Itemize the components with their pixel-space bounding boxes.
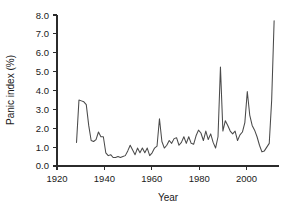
y-tick-label: 8.0 [36, 10, 49, 21]
y-tick-label: 4.0 [36, 85, 49, 96]
x-tick-label: 2000 [236, 173, 257, 184]
panic-index-line-chart: Panic index (%) 8.0 7.0 6.0 5.0 4.0 3.0 … [0, 0, 287, 211]
x-tick-label: 1980 [189, 173, 210, 184]
y-tick-label: 0.0 [36, 160, 49, 171]
x-tick-label: 1960 [141, 173, 162, 184]
x-tick-label: 1940 [94, 173, 115, 184]
y-tick-label: 1.0 [36, 142, 49, 153]
y-axis-title: Panic index (%) [5, 55, 16, 125]
y-tick-label: 3.0 [36, 104, 49, 115]
y-tick-label: 5.0 [36, 66, 49, 77]
y-tick-labels: 8.0 7.0 6.0 5.0 4.0 3.0 2.0 1.0 0.0 [36, 10, 49, 172]
x-axis-title: Year [158, 192, 179, 203]
y-tick-label: 7.0 [36, 28, 49, 39]
y-tick-label: 6.0 [36, 47, 49, 58]
x-tick-label: 1920 [46, 173, 67, 184]
y-tick-label: 2.0 [36, 123, 49, 134]
chart-figure: Panic index (%) 8.0 7.0 6.0 5.0 4.0 3.0 … [0, 0, 287, 211]
